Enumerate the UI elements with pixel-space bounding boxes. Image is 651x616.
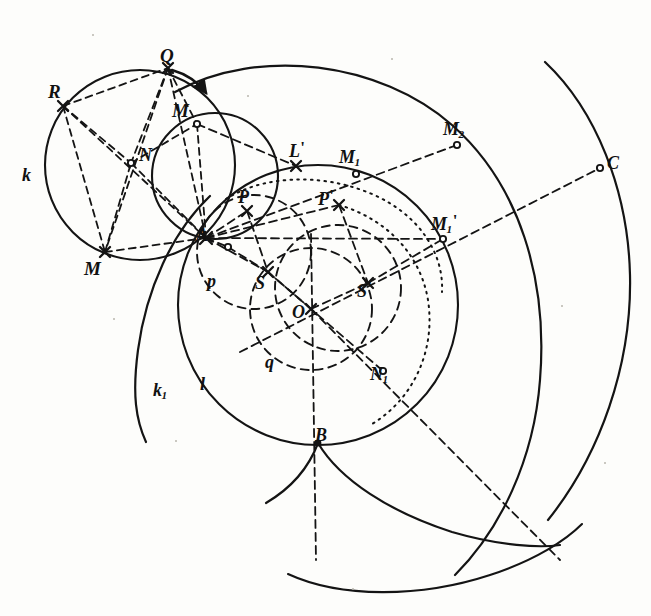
paper-speck xyxy=(175,440,177,442)
paper-speck xyxy=(247,95,249,97)
chord-R-M xyxy=(63,106,105,252)
label-l: l xyxy=(200,375,205,393)
ray-A-Pp xyxy=(206,205,339,238)
line-O-C xyxy=(240,168,600,352)
label-O: O xyxy=(292,303,305,321)
arrow-arc-Q xyxy=(172,70,206,93)
line-axis-O-B xyxy=(311,234,316,560)
figure-canvas: R Q M N k M A L' M1 M2 C M1' P P' p S S'… xyxy=(0,0,651,616)
label-C: C xyxy=(607,154,619,172)
ray-A-Mprime xyxy=(206,238,443,239)
ray-P-S xyxy=(247,211,268,272)
geometric-figure-svg xyxy=(0,0,651,616)
label-N1: N1 xyxy=(370,365,389,383)
point-M1-marker xyxy=(353,171,359,177)
point-markers xyxy=(58,63,603,446)
chord-N-A xyxy=(131,163,206,238)
point-N-marker xyxy=(128,160,134,166)
point-M2-marker xyxy=(454,142,460,148)
label-M-top: M xyxy=(172,101,189,120)
label-R: R xyxy=(48,82,61,101)
point-aux-marker xyxy=(225,244,231,250)
arc-outer-right xyxy=(545,62,630,520)
chord-R-A xyxy=(63,106,206,238)
label-P: P xyxy=(238,188,249,206)
circle-p-dashed xyxy=(197,195,311,309)
paper-speck xyxy=(391,58,393,60)
paper-speck xyxy=(92,34,94,36)
paper-speck xyxy=(561,305,563,307)
point-P-cross xyxy=(242,206,252,216)
arc-bottom-outer xyxy=(288,524,582,592)
point-Mtop-marker xyxy=(194,121,200,127)
label-A: A xyxy=(196,226,208,244)
line-A-diagonal-down xyxy=(311,309,560,560)
label-M1: M1 xyxy=(339,148,361,166)
ray-aux-S xyxy=(228,247,268,272)
label-S-prime: S' xyxy=(357,282,372,300)
label-k1: k1 xyxy=(153,381,168,399)
label-q: q xyxy=(265,353,274,371)
paper-speck xyxy=(352,588,354,590)
point-C-marker xyxy=(597,165,603,171)
label-L-prime: L' xyxy=(289,142,305,160)
label-N: N xyxy=(139,146,152,164)
label-M: M xyxy=(84,259,101,278)
label-Q: Q xyxy=(160,46,174,65)
chord-Q-A xyxy=(168,68,206,238)
label-S: S xyxy=(255,274,265,292)
chord-M-N xyxy=(105,163,131,252)
point-Mprime-marker xyxy=(440,236,446,242)
label-p: p xyxy=(207,272,216,290)
label-M2: M2 xyxy=(443,120,465,138)
paper-speck xyxy=(604,462,606,464)
arc-outer-upper xyxy=(175,66,541,575)
chord-R-N xyxy=(63,106,131,163)
label-P-prime: P' xyxy=(318,190,334,208)
label-k: k xyxy=(22,166,31,184)
arc-bottom-cusp-left xyxy=(266,443,318,503)
point-O-cross xyxy=(306,304,316,314)
ray-Pp-Sp xyxy=(339,205,368,283)
label-M1-prime: M1' xyxy=(431,215,457,233)
ray-Mtop-Lp xyxy=(197,124,296,166)
paper-speck xyxy=(113,318,115,320)
label-B: B xyxy=(315,426,327,444)
